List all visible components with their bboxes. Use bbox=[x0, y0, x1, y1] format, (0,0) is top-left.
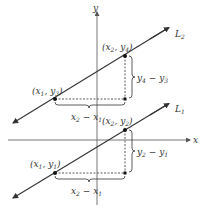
diagram-svg: x y L2 (x1, y3) (x2, y4) y4 − y3 x2 − x1… bbox=[0, 0, 205, 215]
L1-corner-dot bbox=[124, 172, 127, 175]
parallel-lines-diagram: x y L2 (x1, y3) (x2, y4) y4 − y3 x2 − x1… bbox=[0, 0, 205, 215]
line-L2-upper-arrow bbox=[150, 28, 169, 40]
L2-rise-brace bbox=[129, 56, 135, 98]
L2-label: L2 bbox=[174, 29, 185, 40]
y-axis-label: y bbox=[92, 3, 99, 13]
L1-run-brace bbox=[55, 176, 125, 182]
label-x1-y3: (x1, y3) bbox=[32, 86, 63, 97]
point-x2-y2 bbox=[123, 128, 127, 132]
point-x1-y1 bbox=[53, 171, 57, 175]
line-L1-upper-arrow bbox=[150, 104, 169, 116]
L1-label: L1 bbox=[174, 104, 185, 115]
L1-rise-label: y2 − y1 bbox=[136, 147, 168, 158]
L2-corner-dot bbox=[124, 98, 127, 101]
label-x1-y1: (x1, y1) bbox=[30, 159, 61, 170]
label-x2-y4: (x2, y4) bbox=[102, 42, 133, 53]
point-x1-y3 bbox=[53, 97, 57, 101]
line-L2 bbox=[13, 28, 168, 123]
L2-rise-label: y4 − y3 bbox=[136, 73, 168, 84]
L1-rise-brace bbox=[129, 130, 135, 172]
x-axis-label: x bbox=[193, 135, 198, 145]
L1-run-label: x2 − x1 bbox=[71, 186, 102, 197]
L2-run-label: x2 − x1 bbox=[71, 112, 102, 123]
label-x2-y2: (x2, y2) bbox=[102, 116, 133, 127]
L2-run-brace bbox=[55, 102, 125, 108]
point-x2-y4 bbox=[123, 54, 127, 58]
